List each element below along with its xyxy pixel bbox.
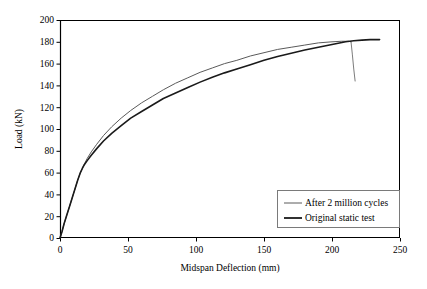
x-tick-label: 150	[257, 245, 272, 255]
y-tick-label: 140	[40, 81, 55, 91]
chart-legend: After 2 million cyclesOriginal static te…	[278, 191, 400, 228]
y-tick-label: 200	[40, 15, 55, 25]
x-axis-title: Midspan Deflection (mm)	[180, 263, 279, 274]
y-tick-label: 180	[40, 37, 55, 47]
y-tick-label: 160	[40, 59, 55, 69]
y-axis-title: Load (kN)	[14, 109, 25, 149]
y-tick-label: 120	[40, 103, 55, 113]
x-tick-label: 250	[393, 245, 408, 255]
legend-label: Original static test	[305, 213, 375, 223]
y-tick-label: 100	[40, 124, 55, 134]
load-deflection-chart: 020406080100120140160180200 050100150200…	[0, 0, 427, 289]
x-tick-label: 200	[325, 245, 340, 255]
y-tick-label: 20	[45, 212, 55, 222]
x-tick-label: 100	[189, 245, 204, 255]
x-tick-label: 50	[123, 245, 133, 255]
y-tick-label: 60	[45, 168, 55, 178]
y-tick-label: 40	[45, 190, 55, 200]
y-axis-ticks: 020406080100120140160180200	[40, 15, 60, 243]
chart-figure: 020406080100120140160180200 050100150200…	[0, 0, 427, 289]
x-tick-label: 0	[58, 245, 63, 255]
x-axis-ticks: 050100150200250	[58, 238, 408, 255]
y-tick-label: 0	[49, 233, 54, 243]
legend-label: After 2 million cycles	[305, 198, 388, 208]
y-tick-label: 80	[45, 146, 55, 156]
